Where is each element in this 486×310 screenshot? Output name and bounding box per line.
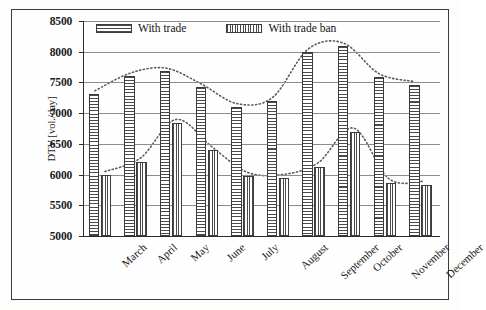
y-axis-tick-label: 8000 [0,46,72,58]
x-axis-tick-label: December [444,241,486,280]
y-axis-tick-mark [79,236,84,237]
y-axis-tick-mark [79,144,84,145]
bar-with-trade [160,71,171,236]
bar-with-trade-ban [136,162,147,236]
y-axis-tick-mark [79,82,84,83]
bar-with-trade [89,94,100,236]
y-axis-tick-label: 8500 [0,15,72,27]
bar-with-trade [267,101,278,236]
bar-with-trade [124,76,135,236]
y-axis-tick-mark [79,205,84,206]
bar-with-trade-ban [350,132,361,236]
trendline-with-trade [95,41,415,105]
bar-with-trade [302,52,313,236]
bar-with-trade-ban [243,176,254,236]
y-axis-tick-label: 7000 [0,107,72,119]
y-axis-tick-label: 6500 [0,138,72,150]
y-axis-tick-mark [79,175,84,176]
gridline [84,113,440,114]
bar-with-trade [231,107,242,236]
y-axis-tick-mark [79,113,84,114]
y-axis-tick-label: 7500 [0,76,72,88]
bar-with-trade-ban [314,167,325,236]
bar-with-trade-ban [208,150,219,236]
gridline [84,21,440,22]
y-axis-tick-label: 6000 [0,169,72,181]
bar-with-trade [196,87,207,236]
y-axis-tick-mark [79,52,84,53]
bar-with-trade [409,85,420,236]
y-axis-tick-mark [79,21,84,22]
gridline [84,82,440,83]
bar-with-trade [374,77,385,236]
plot-area [83,21,440,237]
gridline [84,144,440,145]
bar-with-trade-ban [101,175,112,236]
y-axis-tick-label: 5500 [0,199,72,211]
y-axis-tick-label: 5000 [0,230,72,242]
bar-with-trade [338,46,349,236]
bar-with-trade-ban [279,178,290,236]
gridline [84,52,440,53]
bar-with-trade-ban [386,183,397,236]
bar-with-trade-ban [172,123,183,236]
bar-with-trade-ban [421,185,432,236]
